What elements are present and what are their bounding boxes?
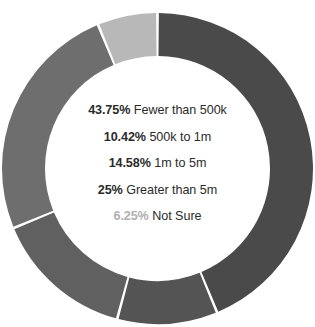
donut-slice[interactable] bbox=[14, 212, 127, 318]
donut-slices-group bbox=[2, 13, 313, 324]
donut-slice[interactable] bbox=[2, 25, 114, 226]
donut-chart-svg bbox=[0, 0, 315, 327]
donut-slice[interactable] bbox=[158, 13, 313, 312]
donut-slice[interactable] bbox=[119, 273, 216, 324]
donut-chart: 43.75% Fewer than 500k10.42% 500k to 1m1… bbox=[0, 0, 315, 327]
